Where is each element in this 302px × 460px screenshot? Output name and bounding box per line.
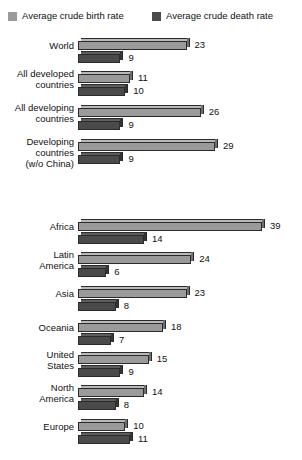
bar-end-cap	[120, 118, 123, 127]
bar-front-face	[78, 422, 125, 431]
bar-end-cap	[163, 320, 166, 329]
bar-top-face	[81, 139, 218, 142]
bar-birth	[78, 289, 187, 298]
bar-value-label: 23	[195, 287, 206, 298]
bar-value-label: 9	[128, 153, 133, 164]
category-label: Latin America	[0, 249, 74, 271]
bar-front-face	[78, 41, 187, 50]
bar-top-face	[81, 385, 147, 388]
bar-birth	[78, 108, 201, 117]
bar-front-face	[78, 323, 163, 332]
bar-value-label: 26	[209, 106, 220, 117]
bar-top-face	[81, 365, 123, 368]
bar-value-label: 6	[114, 266, 119, 277]
bar-top-face	[81, 333, 114, 336]
bar-birth	[78, 355, 149, 364]
category-label: World	[0, 40, 74, 51]
bar-birth	[78, 222, 262, 231]
bar-value-label: 10	[133, 85, 144, 96]
bar-top-face	[81, 38, 190, 41]
category-label: United States	[0, 349, 74, 371]
bar-value-label: 10	[133, 420, 144, 431]
bar-end-cap	[149, 352, 152, 361]
bar-end-cap	[144, 232, 147, 241]
bar-front-face	[78, 54, 120, 63]
category-label: North America	[0, 382, 74, 404]
bar-value-label: 15	[157, 353, 168, 364]
bar-front-face	[78, 289, 187, 298]
bar-birth	[78, 142, 215, 151]
bar-front-face	[78, 235, 144, 244]
bar-top-face	[81, 398, 119, 401]
bar-birth	[78, 74, 130, 83]
bar-front-face	[78, 302, 116, 311]
category-label: Developing countries (w/o China)	[0, 136, 74, 169]
bar-end-cap	[120, 152, 123, 161]
bar-value-label: 14	[152, 386, 163, 397]
bar-front-face	[78, 87, 125, 96]
bar-front-face	[78, 388, 144, 397]
bar-front-face	[78, 255, 191, 264]
bar-end-cap	[215, 139, 218, 148]
bar-front-face	[78, 435, 130, 444]
bar-end-cap	[116, 299, 119, 308]
bar-end-cap	[120, 51, 123, 60]
bar-death	[78, 121, 120, 130]
bar-end-cap	[187, 286, 190, 295]
bar-end-cap	[130, 432, 133, 441]
category-label: All developing countries	[0, 102, 74, 124]
bar-value-label: 11	[138, 433, 148, 444]
bar-top-face	[81, 219, 265, 222]
bar-end-cap	[106, 265, 109, 274]
bar-front-face	[78, 155, 120, 164]
bar-value-label: 24	[199, 253, 210, 264]
bar-top-face	[81, 71, 133, 74]
bar-top-face	[81, 320, 166, 323]
bar-end-cap	[262, 219, 265, 228]
bar-value-label: 23	[195, 39, 206, 50]
bar-death	[78, 336, 111, 345]
bar-death	[78, 155, 120, 164]
bar-death	[78, 235, 144, 244]
chart-plot-area: World239All developed countries1110All d…	[0, 0, 302, 460]
bar-end-cap	[187, 38, 190, 47]
bar-front-face	[78, 74, 130, 83]
bar-top-face	[81, 105, 204, 108]
bar-value-label: 9	[128, 119, 133, 130]
bar-birth	[78, 323, 163, 332]
bar-top-face	[81, 118, 123, 121]
bar-death	[78, 368, 120, 377]
bar-front-face	[78, 121, 120, 130]
bar-top-face	[81, 152, 123, 155]
bar-birth	[78, 41, 187, 50]
bar-front-face	[78, 142, 215, 151]
bar-end-cap	[111, 333, 114, 342]
bar-top-face	[81, 432, 133, 435]
bar-front-face	[78, 268, 106, 277]
bar-end-cap	[201, 105, 204, 114]
bar-birth	[78, 255, 191, 264]
bar-death	[78, 401, 116, 410]
bar-front-face	[78, 108, 201, 117]
bar-front-face	[78, 355, 149, 364]
bar-value-label: 18	[171, 321, 182, 332]
bar-top-face	[81, 252, 194, 255]
bar-death	[78, 302, 116, 311]
bar-death	[78, 87, 125, 96]
bar-front-face	[78, 222, 262, 231]
bar-top-face	[81, 232, 147, 235]
bar-death	[78, 54, 120, 63]
bar-value-label: 8	[124, 399, 129, 410]
bar-top-face	[81, 299, 119, 302]
category-label: Oceania	[0, 322, 74, 333]
category-label: All developed countries	[0, 68, 74, 90]
bar-end-cap	[125, 84, 128, 93]
bar-value-label: 29	[223, 140, 234, 151]
bar-top-face	[81, 352, 152, 355]
bar-value-label: 8	[124, 300, 129, 311]
bar-death	[78, 435, 130, 444]
bar-front-face	[78, 368, 120, 377]
bar-value-label: 14	[152, 233, 163, 244]
bar-end-cap	[191, 252, 194, 261]
category-label: Africa	[0, 221, 74, 232]
